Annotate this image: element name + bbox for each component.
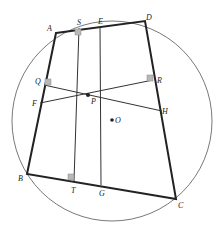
label-O: O	[115, 116, 121, 125]
label-Q: Q	[35, 77, 41, 86]
point-P	[86, 93, 90, 97]
label-B: B	[18, 174, 23, 183]
label-C: C	[178, 201, 184, 210]
label-T: T	[71, 186, 76, 195]
point-O	[110, 118, 114, 122]
quadrilateral-ABCD	[27, 21, 176, 199]
label-P: P	[90, 97, 96, 106]
right-angle-markers	[45, 29, 153, 180]
label-D: D	[145, 13, 152, 22]
geometry-diagram: A S E D Q R F P H O B T G C	[0, 0, 224, 231]
label-E: E	[97, 17, 103, 26]
label-F: F	[31, 99, 37, 108]
label-A: A	[46, 24, 52, 33]
label-H: H	[161, 107, 169, 116]
label-S: S	[77, 18, 81, 27]
label-R: R	[156, 76, 162, 85]
label-G: G	[99, 189, 105, 198]
lines-through-P	[40, 27, 162, 185]
